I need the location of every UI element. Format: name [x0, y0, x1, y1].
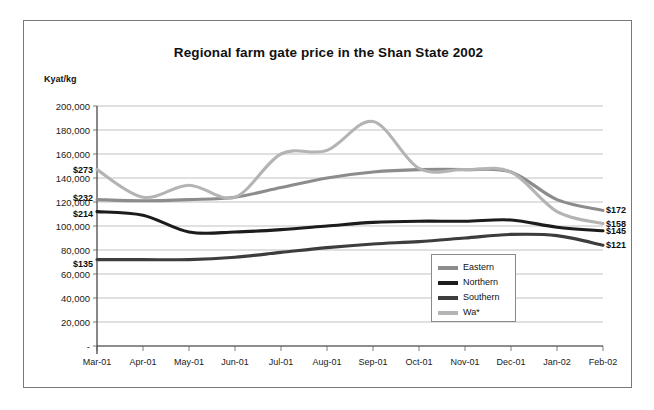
legend-item: Wa* [432, 305, 515, 320]
y-tick-label: 100,000 [32, 221, 90, 232]
x-tick-label: Nov-01 [450, 357, 479, 367]
chart-svg [24, 21, 633, 389]
x-tick-label: Feb-02 [589, 357, 618, 367]
annotation-left: $214 [47, 209, 93, 219]
figure-frame: Regional farm gate price in the Shan Sta… [23, 20, 632, 388]
x-tick-label: Dec-01 [496, 357, 525, 367]
y-tick-label: 20,000 [32, 317, 90, 328]
annotation-right: $172 [606, 205, 626, 215]
plot-area [24, 21, 633, 389]
x-tick-label: Apr-01 [129, 357, 156, 367]
y-tick-label: 40,000 [32, 293, 90, 304]
legend-item: Eastern [432, 260, 515, 275]
legend-swatch-icon [438, 296, 458, 300]
y-tick-label: 180,000 [32, 125, 90, 136]
x-tick-label: Jul-01 [269, 357, 294, 367]
x-tick-label: Aug-01 [312, 357, 341, 367]
series-line-northern [97, 212, 603, 234]
legend-item-label: Eastern [463, 263, 494, 272]
y-tick-label: 80,000 [32, 245, 90, 256]
x-tick-label: Jun-01 [221, 357, 249, 367]
annotation-left: $232 [47, 193, 93, 203]
annotation-right: $121 [606, 240, 626, 250]
legend-item-label: Wa* [463, 308, 480, 317]
legend-item-label: Northern [463, 278, 498, 287]
x-tick-label: Oct-01 [405, 357, 432, 367]
y-tick-label: 160,000 [32, 149, 90, 160]
series-line-southern [97, 234, 603, 260]
axes [93, 106, 603, 354]
legend-swatch-icon [438, 311, 458, 315]
y-tick-label: 60,000 [32, 269, 90, 280]
annotation-left: $135 [47, 259, 93, 269]
legend-swatch-icon [438, 281, 458, 285]
series-lines [97, 121, 603, 259]
x-tick-label: May-01 [174, 357, 204, 367]
legend-item-label: Southern [463, 293, 500, 302]
annotation-left: $273 [47, 165, 93, 175]
legend-item: Northern [432, 275, 515, 290]
x-tick-label: Jan-02 [543, 357, 571, 367]
legend: EasternNorthernSouthernWa* [431, 254, 516, 322]
legend-swatch-icon [438, 266, 458, 270]
figure-page: Regional farm gate price in the Shan Sta… [0, 0, 654, 410]
y-tick-label: 200,000 [32, 101, 90, 112]
x-tick-label: Sep-01 [358, 357, 387, 367]
annotation-right: $145 [606, 226, 626, 236]
series-line-wa [97, 121, 603, 223]
x-tick-label: Mar-01 [83, 357, 112, 367]
y-tick-label: - [32, 341, 90, 352]
legend-item: Southern [432, 290, 515, 305]
